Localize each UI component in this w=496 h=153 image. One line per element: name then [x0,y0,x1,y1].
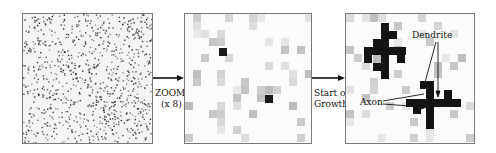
dendrite-label: Dendrite [412,30,452,41]
growth-label: Start of [314,88,349,99]
neuron-upper [364,23,406,79]
neurons [346,14,475,144]
zoomed-panel [184,13,312,144]
noise-field [23,14,153,144]
neuron-lower [406,81,461,129]
growth-panel [345,13,475,144]
zoom-label: ZOOM [155,88,185,99]
axon-label: Axon [360,97,383,108]
growth-label-2: Growth [314,99,348,110]
seed-cell-1 [219,48,227,56]
noise-panel [22,13,153,144]
zoom-factor-label: (x 8) [161,99,182,110]
seed-cell-2 [265,95,273,103]
